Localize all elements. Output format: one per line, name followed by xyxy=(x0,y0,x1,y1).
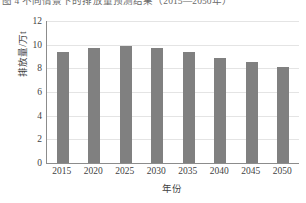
bar xyxy=(183,52,195,163)
y-axis-tick-label: 4 xyxy=(22,111,42,121)
y-axis-tick-label: 2 xyxy=(22,134,42,144)
y-axis-tick-labels: 024681012 xyxy=(22,9,42,203)
bar xyxy=(277,67,289,163)
x-axis-tick-label: 2045 xyxy=(235,166,267,176)
x-axis-tick-label: 2015 xyxy=(46,166,78,176)
x-axis-tick-label: 2030 xyxy=(141,166,173,176)
figure-caption-text: 图 4 不同情景下的排放量预测结果（2015—2050年） xyxy=(2,0,232,7)
bar-slot xyxy=(79,21,111,163)
bar-series xyxy=(47,21,299,163)
bar xyxy=(151,48,163,163)
x-axis-tick-labels: 20152020202520302035204020452050 xyxy=(46,166,298,176)
bar xyxy=(88,48,100,163)
bar-slot xyxy=(236,21,268,163)
y-axis-tick-label: 0 xyxy=(22,158,42,168)
bar-slot xyxy=(268,21,300,163)
x-axis-tick-label: 2020 xyxy=(78,166,110,176)
bar xyxy=(120,46,132,163)
y-axis-tick-label: 12 xyxy=(22,16,42,26)
figure-caption-strip: 图 4 不同情景下的排放量预测结果（2015—2050年） xyxy=(0,0,306,9)
y-axis-tick-label: 6 xyxy=(22,87,42,97)
y-axis-tick-label: 8 xyxy=(22,63,42,73)
bar-chart-figure: 排放量/万t 024681012 20152020202520302035204… xyxy=(0,9,306,203)
y-axis-tick-label: 10 xyxy=(22,40,42,50)
x-axis-title: 年份 xyxy=(46,181,298,195)
bar-slot xyxy=(110,21,142,163)
bar xyxy=(246,62,258,163)
plot-area xyxy=(46,21,299,164)
bar xyxy=(214,58,226,163)
bar xyxy=(57,52,69,163)
x-axis-tick-label: 2035 xyxy=(172,166,204,176)
x-axis-tick-label: 2025 xyxy=(109,166,141,176)
bar-slot xyxy=(173,21,205,163)
x-axis-tick-label: 2050 xyxy=(267,166,299,176)
bar-slot xyxy=(205,21,237,163)
bar-slot xyxy=(142,21,174,163)
x-axis-tick-label: 2040 xyxy=(204,166,236,176)
bar-slot xyxy=(47,21,79,163)
